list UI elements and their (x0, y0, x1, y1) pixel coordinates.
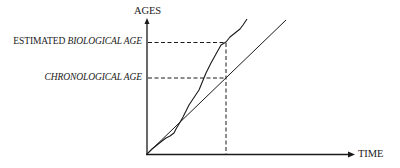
chronological-age-label: CHRONOLOGICAL AGE (45, 72, 142, 82)
aging-diagram (0, 0, 400, 168)
y-axis-label: AGES (134, 5, 161, 16)
biological-age-label: ESTIMATED BIOLOGICAL AGE (13, 36, 142, 46)
y-axis-arrow-icon (145, 18, 150, 24)
biological-age-curve (147, 19, 247, 154)
x-axis-label: TIME (358, 148, 383, 159)
chronological-age-line (147, 20, 286, 154)
biological-age-label-prefix: ESTIMATED (13, 36, 67, 46)
biological-age-label-italic: BIOLOGICAL AGE (67, 36, 142, 46)
x-axis-arrow-icon (348, 152, 355, 158)
